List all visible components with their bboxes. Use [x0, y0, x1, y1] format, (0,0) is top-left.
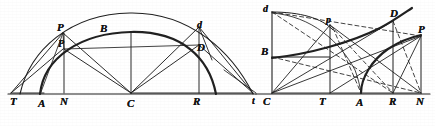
label-left-A: A — [38, 98, 45, 109]
ray-C-to-P — [272, 36, 421, 93]
top-arc-d-to-p — [272, 12, 333, 30]
label-right-B: B — [261, 46, 268, 57]
chord-T-to-P-inner — [11, 49, 63, 93]
label-right-d: d — [263, 4, 268, 14]
label-left-T: T — [10, 96, 17, 107]
label-right-R: R — [389, 96, 396, 107]
label-right-N: N — [416, 96, 424, 107]
label-left-C: C — [127, 98, 134, 109]
label-right-D: D — [390, 8, 398, 19]
label-left-B: B — [100, 23, 107, 34]
chord-d-to-t — [199, 27, 253, 93]
label-left-d: d — [197, 20, 202, 30]
chord-p-to-N — [330, 25, 421, 93]
label-left-D: D — [197, 42, 205, 53]
thin-arc-d-to-A — [272, 13, 361, 93]
left-figure-group — [8, 13, 256, 94]
lower-curve-A-P — [361, 35, 421, 93]
label-right-t: t — [252, 96, 255, 106]
figure-drawing — [0, 0, 435, 126]
stub-to-t — [224, 70, 256, 93]
chord-T-to-P-outer — [11, 33, 63, 93]
label-left-R: R — [193, 96, 200, 107]
radius-C-to-P-inner — [64, 49, 131, 93]
radius-C-to-P-outer — [63, 33, 131, 93]
label-right-P: P — [418, 24, 425, 35]
label-right-A: A — [356, 97, 363, 108]
dash-B-to-N — [272, 57, 421, 93]
figure-plate: T A N C R P P B d D t C T A R N d B p D … — [0, 0, 435, 126]
label-left-P-outer: P — [57, 22, 64, 33]
label-left-N: N — [60, 96, 68, 107]
inner-arc — [40, 32, 216, 94]
label-left-P-inner: P — [58, 39, 64, 49]
dash-d-to-R — [272, 12, 393, 93]
label-right-C: C — [263, 96, 270, 107]
label-right-T: T — [319, 96, 326, 107]
label-right-p: p — [326, 15, 331, 25]
radius-C-to-D — [131, 45, 199, 93]
